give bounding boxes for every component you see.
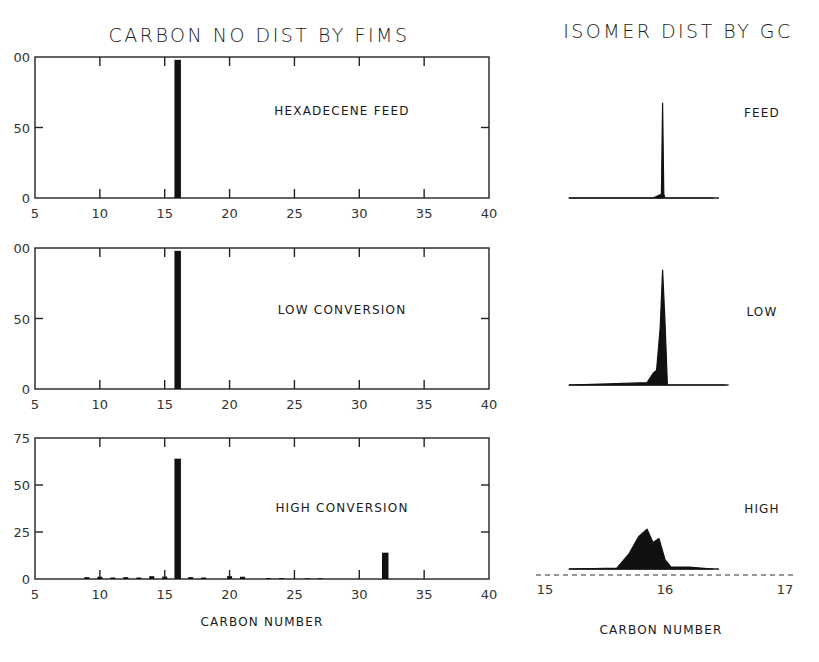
gc-trace-feed: FEED	[569, 103, 780, 198]
bar-panel-1: 51015202530354005000HEXADECENE FEED	[13, 50, 497, 221]
y-tick-label: 50	[13, 312, 30, 327]
x-tick-label: 5	[31, 397, 39, 412]
x-tick-label: 25	[286, 587, 303, 602]
y-tick-label: 25	[13, 525, 30, 540]
x-tick-label: 5	[31, 206, 39, 221]
x-tick-label: 30	[351, 587, 368, 602]
chromatogram-trace	[569, 103, 713, 198]
y-tick-label: 75	[13, 431, 30, 446]
trace-label: HIGH	[744, 502, 780, 516]
y-tick-label: 50	[13, 478, 30, 493]
y-tick-label: 50	[13, 121, 30, 136]
gc-x-tick-label: 17	[777, 582, 794, 597]
x-tick-label: 30	[351, 397, 368, 412]
gc-trace-high: HIGH	[569, 502, 780, 569]
x-tick-label: 40	[481, 397, 498, 412]
bar-c15	[162, 577, 167, 579]
x-tick-label: 5	[31, 587, 39, 602]
panel-label: HIGH CONVERSION	[275, 501, 408, 515]
bar-c32	[382, 553, 389, 579]
bar-c20	[227, 576, 232, 579]
y-tick-label: 00	[13, 241, 30, 256]
right-chart-title: ISOMER DIST BY GC	[563, 20, 793, 42]
chromatogram-trace	[569, 529, 713, 569]
x-tick-label: 15	[156, 206, 173, 221]
bar-c18	[201, 577, 206, 579]
plot-frame	[35, 248, 489, 389]
bar-c16	[174, 251, 181, 389]
bar-c9	[84, 577, 89, 579]
x-tick-label: 10	[92, 206, 109, 221]
bar-c14	[149, 576, 154, 579]
x-tick-label: 15	[156, 397, 173, 412]
left-panels: 51015202530354005000HEXADECENE FEED51015…	[13, 50, 497, 602]
y-tick-label: 00	[13, 50, 30, 65]
right-panels: FEEDLOWHIGH151617	[536, 103, 795, 597]
x-tick-label: 30	[351, 206, 368, 221]
x-tick-label: 20	[221, 397, 238, 412]
bar-c12	[123, 577, 128, 579]
trace-label: FEED	[744, 106, 780, 120]
plot-frame	[35, 57, 489, 198]
figure-canvas: CARBON NO DIST BY FIMS ISOMER DIST BY GC…	[0, 0, 819, 662]
plot-frame	[35, 438, 489, 579]
panel-label: HEXADECENE FEED	[274, 104, 410, 118]
bar-c13	[136, 577, 141, 579]
trace-label: LOW	[746, 305, 777, 319]
bar-c16	[174, 60, 181, 198]
bar-c26	[305, 578, 310, 579]
gc-x-tick-label: 15	[537, 582, 554, 597]
bar-c21	[240, 577, 245, 579]
panel-label: LOW CONVERSION	[278, 303, 407, 317]
x-tick-label: 15	[156, 587, 173, 602]
x-tick-label: 25	[286, 206, 303, 221]
y-tick-label: 0	[22, 191, 30, 206]
bar-c17	[188, 577, 193, 579]
bar-c11	[110, 577, 115, 579]
y-tick-label: 0	[22, 382, 30, 397]
bar-c16	[174, 459, 181, 579]
x-tick-label: 20	[221, 587, 238, 602]
y-tick-label: 0	[22, 572, 30, 587]
gc-trace-low: LOW	[569, 270, 778, 385]
x-tick-label: 40	[481, 206, 498, 221]
bar-c24	[279, 578, 284, 579]
bar-panel-3: 5101520253035400255075HIGH CONVERSION	[13, 431, 497, 602]
x-tick-label: 35	[416, 206, 433, 221]
x-tick-label: 20	[221, 206, 238, 221]
x-tick-label: 10	[92, 397, 109, 412]
x-tick-label: 35	[416, 397, 433, 412]
bar-c10	[97, 577, 102, 579]
x-tick-label: 35	[416, 587, 433, 602]
gc-x-tick-label: 16	[657, 582, 674, 597]
x-tick-label: 25	[286, 397, 303, 412]
chromatogram-trace	[569, 270, 725, 385]
left-x-axis-label: CARBON NUMBER	[200, 615, 323, 629]
right-x-axis-label: CARBON NUMBER	[599, 623, 722, 637]
bar-c27	[318, 578, 323, 579]
x-tick-label: 10	[92, 587, 109, 602]
bar-panel-2: 51015202530354005000LOW CONVERSION	[13, 241, 497, 412]
x-tick-label: 40	[481, 587, 498, 602]
bar-c23	[266, 578, 271, 579]
left-chart-title: CARBON NO DIST BY FIMS	[109, 24, 410, 46]
